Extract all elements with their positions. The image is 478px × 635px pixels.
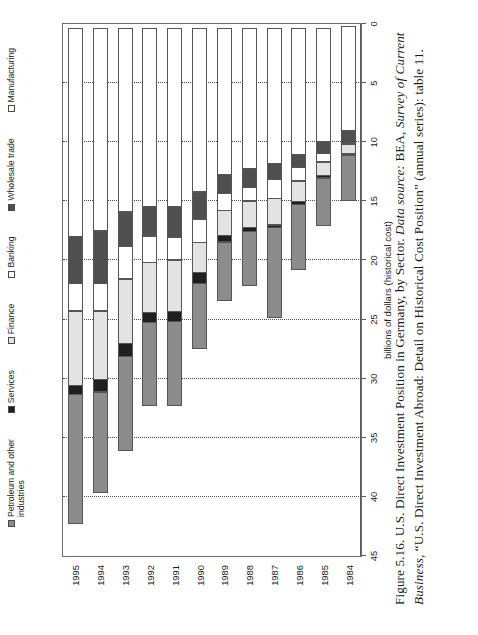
bar-segment: [93, 311, 108, 381]
stacked-bar: [68, 24, 83, 524]
bar-segment: [242, 187, 257, 201]
bar-segment: [192, 283, 207, 349]
caption-source-rest: , “U.S. Direct Investment Abroad: Detail…: [411, 49, 426, 558]
bar-segment: [341, 155, 356, 201]
chart-plot-area: [62, 23, 362, 557]
stacked-bar: [341, 24, 356, 201]
value-axis-tick: [362, 319, 366, 320]
legend-item-label: Petroleum and other industries: [7, 439, 26, 517]
bar-segment: [93, 379, 108, 392]
caption-title: U.S. Direct Investment Position in Germa…: [392, 238, 407, 536]
legend-item: Manufacturing: [6, 48, 17, 112]
stacked-bar: [167, 24, 182, 406]
category-label-1984: 1984: [343, 565, 354, 586]
bar-segment: [291, 204, 306, 270]
value-axis-tick: [362, 437, 366, 438]
value-axis-tick: [362, 200, 366, 201]
bar-segment: [118, 212, 133, 247]
legend-swatch-icon: [8, 337, 15, 344]
value-axis-tick-label: 15: [368, 196, 379, 206]
value-axis-tick: [362, 259, 366, 260]
bar-segment: [291, 154, 306, 168]
bar-row: [93, 24, 108, 556]
bar-segment: [142, 262, 157, 313]
bar-segment: [291, 28, 306, 154]
bar-segment: [267, 28, 282, 164]
bar-segment: [242, 231, 257, 287]
stacked-bar: [242, 24, 257, 286]
legend-item: Wholesale trade: [6, 138, 17, 210]
legend-swatch-icon: [8, 204, 15, 211]
bar-row: [142, 24, 157, 556]
bar-segment: [167, 237, 182, 261]
bar-row: [291, 24, 306, 556]
bar-segment: [217, 210, 232, 236]
bar-segment: [118, 28, 133, 212]
stacked-bar: [267, 24, 282, 318]
category-label-1992: 1992: [144, 565, 155, 586]
bar-segment: [192, 242, 207, 273]
category-axis-labels: 1984198519861987198819891990199119921993…: [62, 559, 362, 617]
value-axis-tick-label: 5: [368, 81, 379, 86]
legend-swatch-icon: [8, 520, 15, 527]
bar-row: [341, 24, 356, 556]
bar-segment: [267, 163, 282, 180]
figure-page: Petroleum and other industriesServicesFi…: [0, 0, 478, 635]
bar-segment: [217, 174, 232, 194]
value-axis-tick-label: 10: [368, 137, 379, 147]
bar-segment: [68, 394, 83, 524]
bar-segment: [242, 168, 257, 188]
category-label-1986: 1986: [293, 565, 304, 586]
legend-item: Banking: [6, 237, 17, 278]
bar-segment: [118, 279, 133, 344]
bar-segment: [267, 227, 282, 318]
caption-source-label: Data source:: [392, 165, 407, 235]
bar-row: [68, 24, 83, 556]
bar-segment: [118, 246, 133, 279]
bar-segment: [93, 283, 108, 311]
bar-segment: [118, 343, 133, 357]
bar-segment: [217, 242, 232, 301]
axis-baseline: [360, 24, 361, 556]
bar-segment: [316, 162, 331, 176]
bar-segment: [68, 385, 83, 394]
value-axis-tick-label: 30: [368, 373, 379, 383]
stacked-bar: [217, 24, 232, 301]
category-label-1991: 1991: [169, 565, 180, 586]
stacked-bar: [118, 24, 133, 451]
bar-segment: [167, 321, 182, 406]
bar-segment: [118, 356, 133, 451]
bar-segment: [68, 283, 83, 311]
caption-number: Figure 5.16.: [392, 540, 407, 605]
bar-segment: [341, 26, 356, 131]
legend-item-label: Banking: [7, 237, 17, 268]
stacked-bar: [192, 24, 207, 349]
stacked-bar: [291, 24, 306, 270]
plot-canvas: [62, 23, 362, 557]
bar-segment: [167, 260, 182, 312]
bar-row: [316, 24, 331, 556]
category-label-1985: 1985: [318, 565, 329, 586]
bar-segment: [316, 28, 331, 141]
bar-row: [267, 24, 282, 556]
figure-caption: Figure 5.16. U.S. Direct Investment Posi…: [390, 25, 428, 605]
bar-segment: [192, 28, 207, 192]
category-label-1993: 1993: [120, 565, 131, 586]
category-label-1987: 1987: [269, 565, 280, 586]
bar-segment: [93, 28, 108, 231]
caption-source-agency: BEA,: [392, 132, 407, 162]
legend-item-label: Finance: [7, 304, 17, 335]
category-label-1990: 1990: [194, 565, 205, 586]
bar-segment: [192, 272, 207, 284]
bar-segment: [267, 179, 282, 199]
bar-segment: [167, 28, 182, 207]
bar-segment: [316, 153, 331, 162]
bar-segment: [93, 392, 108, 494]
value-axis-tick: [362, 82, 366, 83]
bar-segment: [316, 178, 331, 226]
value-axis-tick: [362, 378, 366, 379]
bar-segment: [242, 28, 257, 169]
bar-segment: [242, 201, 257, 228]
bar-segment: [192, 219, 207, 243]
bar-segment: [192, 192, 207, 220]
